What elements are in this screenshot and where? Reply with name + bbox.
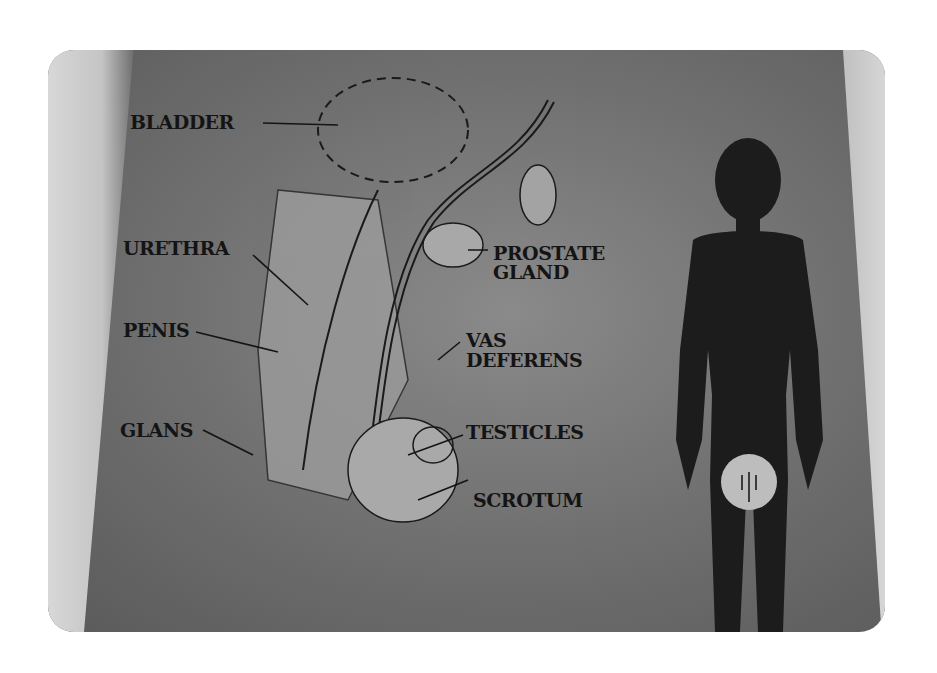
bladder-outline [318,78,468,182]
label-testicles: TESTICLES [466,422,584,442]
label-penis: PENIS [123,320,189,340]
label-prostate-line1: PROSTATE [493,243,605,263]
label-urethra: URETHRA [123,238,229,258]
label-bladder: BLADDER [130,112,234,132]
label-vas-line2: DEFERENS [466,350,582,370]
label-scrotum: SCROTUM [473,490,582,510]
diagram-frame: BLADDER URETHRA PENIS GLANS PROSTATE GLA… [48,50,885,632]
prostate-outline [423,223,483,267]
testicle-outline [348,418,458,522]
silhouette-figure [676,138,823,632]
label-prostate-line2: GLAND [493,262,569,282]
label-glans: GLANS [120,420,193,440]
label-vas-line1: VAS [466,330,506,350]
